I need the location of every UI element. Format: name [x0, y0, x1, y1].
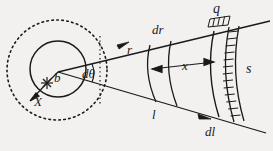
label-s: s: [246, 61, 252, 76]
inner-arc: [148, 45, 156, 102]
label-q: q: [213, 1, 220, 16]
solid-inner-circle: [30, 41, 86, 97]
detector-arc-inner: [225, 27, 234, 122]
label-dr: dr: [152, 22, 165, 37]
label-dl: dl: [205, 124, 216, 139]
detector-segment-ticks: [223, 31, 241, 116]
figure-canvas: b X dθ r dr x l dl q s: [0, 0, 273, 151]
label-x: x: [181, 58, 188, 73]
outer-arc: [210, 31, 219, 117]
label-b: b: [54, 70, 61, 85]
lower-ray: [58, 72, 266, 133]
label-X: X: [33, 94, 43, 109]
diagram-svg: b X dθ r dr x l dl q s: [0, 0, 273, 151]
label-l: l: [152, 107, 156, 122]
label-dtheta: dθ: [82, 66, 96, 81]
q-box: [208, 16, 230, 27]
detector-arc-outer: [235, 26, 244, 121]
middle-arc: [169, 41, 177, 106]
